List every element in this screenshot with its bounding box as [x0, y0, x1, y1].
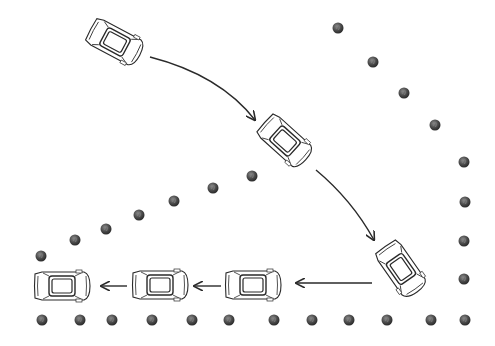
diagram-canvas [0, 0, 495, 346]
marker-group-bottom-row [37, 315, 471, 326]
car-icon [35, 270, 91, 302]
car-icon [254, 111, 317, 172]
ball-marker-icon [169, 196, 180, 207]
car-icon [133, 269, 189, 301]
ball-marker-icon [36, 251, 47, 262]
ball-marker-icon [460, 315, 471, 326]
ball-marker-icon [101, 224, 112, 235]
ball-marker-icon [208, 183, 219, 194]
ball-marker-icon [430, 120, 441, 131]
ball-marker-icon [224, 315, 235, 326]
ball-marker-icon [459, 274, 470, 285]
ball-marker-icon [459, 157, 470, 168]
car-icon [226, 269, 282, 301]
ball-marker-icon [399, 88, 410, 99]
car-icon [83, 15, 147, 69]
ball-marker-icon [107, 315, 118, 326]
ball-marker-icon [460, 197, 471, 208]
ball-marker-icon [344, 315, 355, 326]
ball-marker-icon [368, 57, 379, 68]
marker-group-diagonal-row [36, 171, 258, 262]
car-icon [372, 237, 430, 301]
ball-marker-icon [147, 315, 158, 326]
ball-marker-icon [459, 236, 470, 247]
arrow-car-1-to-car-2 [150, 57, 255, 120]
ball-marker-icon [75, 315, 86, 326]
ball-marker-icon [247, 171, 258, 182]
ball-marker-icon [70, 235, 81, 246]
arrow-car-2-to-car-3 [316, 170, 374, 240]
ball-marker-icon [269, 315, 280, 326]
ball-marker-icon [333, 23, 344, 34]
ball-marker-icon [426, 315, 437, 326]
arrows-layer [101, 57, 374, 286]
ball-marker-icon [37, 315, 48, 326]
ball-marker-icon [134, 210, 145, 221]
ball-marker-icon [382, 315, 393, 326]
diagram-svg [0, 0, 495, 346]
ball-marker-icon [187, 315, 198, 326]
ball-marker-icon [307, 315, 318, 326]
